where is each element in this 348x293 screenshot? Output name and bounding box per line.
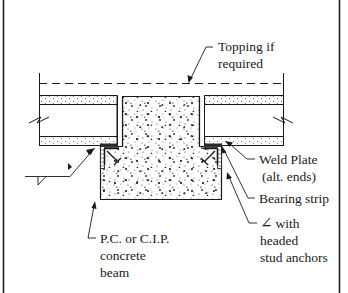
angle-label: ∠with headed stud anchors bbox=[260, 215, 328, 266]
angle-symbol-icon: ∠ bbox=[260, 215, 273, 232]
bearing-strip-label: Bearing strip bbox=[259, 190, 329, 207]
connection-detail-diagram: Topping if required Weld Plate (alt. end… bbox=[0, 0, 348, 293]
topping-label: Topping if required bbox=[218, 38, 274, 72]
angle-label-line3: stud anchors bbox=[260, 249, 328, 266]
topping-label-line1: Topping if bbox=[218, 38, 274, 55]
weld-symbol-icon bbox=[25, 148, 96, 185]
beam-label-line2: concrete bbox=[100, 247, 169, 264]
beam-label-line1: P.C. or C.I.P. bbox=[100, 230, 169, 247]
angle-label-line1: with bbox=[276, 216, 300, 231]
left-hollow-core-slab bbox=[40, 96, 118, 146]
beam-label-line3: beam bbox=[100, 264, 169, 281]
weld-plate-label: Weld Plate (alt. ends) bbox=[259, 151, 318, 185]
weld-plate-label-line1: Weld Plate bbox=[259, 151, 318, 168]
topping-label-line2: required bbox=[218, 55, 274, 72]
bearing-strip-label-line1: Bearing strip bbox=[259, 190, 329, 207]
weld-plate-label-line2: (alt. ends) bbox=[259, 168, 318, 185]
topping-leader bbox=[188, 47, 214, 83]
angle-label-line2: headed bbox=[260, 232, 328, 249]
bearing-strip-leader bbox=[221, 146, 255, 198]
beam-label: P.C. or C.I.P. concrete beam bbox=[100, 230, 169, 281]
beam-leader bbox=[88, 201, 97, 238]
right-hollow-core-slab bbox=[205, 96, 284, 146]
angle-leader bbox=[227, 172, 258, 223]
